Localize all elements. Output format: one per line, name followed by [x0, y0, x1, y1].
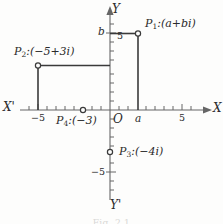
variable-label-b: b [98, 26, 105, 37]
point-marker-p3 [107, 149, 112, 154]
figure-caption: Fig. 2.1 [0, 218, 223, 224]
x-positive-axis-label: X [213, 102, 222, 114]
y-positive-axis-label: Y [112, 3, 120, 15]
point-marker-p2 [35, 63, 40, 68]
x-axis-arrowhead [203, 106, 212, 113]
point-label-p1-value: (a+bi) [161, 17, 196, 30]
point-label-p4-value: (−3) [72, 114, 97, 127]
variable-label-a: a [135, 113, 141, 124]
y-axis [106, 6, 113, 200]
y-tick-label-pos-five: 5 [117, 31, 123, 41]
point-label-p3-value: (−4i) [135, 145, 163, 158]
point-label-p3: P3:(−4i) [119, 146, 163, 159]
origin-label: O [113, 113, 123, 125]
y-axis-ticks [106, 24, 116, 190]
x-tick-label-neg-five: −5 [31, 113, 45, 123]
point-marker-p1 [135, 31, 140, 36]
x-negative-axis-label: X' [3, 101, 15, 113]
complex-plane-figure: P1:(a+bi) P2:(−5+3i) P3:(−4i) P4:(−3) X'… [0, 0, 223, 224]
point-label-p2: P2:(−5+3i) [14, 46, 74, 59]
y-negative-axis-label: Y' [110, 199, 121, 211]
point-label-p1: P1:(a+bi) [145, 18, 196, 31]
point-label-p4: P4:(−3) [56, 115, 97, 128]
point-label-p2-value: (−5+3i) [30, 45, 75, 58]
y-tick-label-neg-five: −5 [91, 167, 105, 177]
x-tick-label-pos-five: 5 [179, 113, 185, 123]
point-marker-p4 [80, 107, 85, 112]
